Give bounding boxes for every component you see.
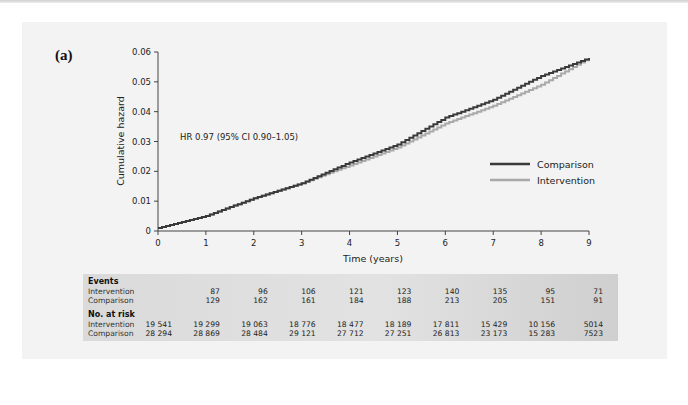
y-tick-label: 0.06 <box>132 47 151 57</box>
at-risk-intervention-cell: 18 776 <box>276 320 316 329</box>
events-intervention-cell: 95 <box>515 287 555 296</box>
legend-label-intervention: Intervention <box>537 175 595 186</box>
x-tick-label: 7 <box>491 238 496 248</box>
events-comparison-cell: 188 <box>371 296 411 305</box>
events-comparison-cell: 161 <box>276 296 316 305</box>
events-intervention-cell: 140 <box>419 287 459 296</box>
at-risk-comparison-cell: 28 294 <box>132 329 172 338</box>
y-tick-label: 0 <box>146 226 151 236</box>
events-comparison-cell: 129 <box>180 296 220 305</box>
at-risk-intervention-cell: 18 189 <box>371 320 411 329</box>
events-header: Events <box>88 277 118 286</box>
cumulative-hazard-chart: 00.010.020.030.040.050.060123456789 HR 0… <box>0 0 688 405</box>
events-intervention-cell: 121 <box>324 287 364 296</box>
legend: Comparison Intervention <box>490 159 595 186</box>
at-risk-intervention-cell: 17 811 <box>419 320 459 329</box>
at-risk-row-label-comparison: Comparison <box>88 329 133 338</box>
events-row-label-comparison: Comparison <box>88 296 133 305</box>
events-intervention-cell: 106 <box>276 287 316 296</box>
at-risk-comparison-cell: 27 712 <box>324 329 364 338</box>
risk-table: Events Intervention Comparison No. at ri… <box>83 274 618 341</box>
y-tick-label: 0.05 <box>132 77 151 87</box>
x-tick-label: 1 <box>203 238 208 248</box>
series-line-comparison <box>158 58 589 228</box>
events-row-label-intervention: Intervention <box>88 287 134 296</box>
y-axis-title: Cumulative hazard <box>115 96 126 186</box>
series-lines <box>158 58 589 228</box>
at-risk-comparison-cell: 26 813 <box>419 329 459 338</box>
at-risk-comparison-cell: 29 121 <box>276 329 316 338</box>
at-risk-intervention-cell: 19 541 <box>132 320 172 329</box>
events-comparison-cell: 162 <box>228 296 268 305</box>
x-tick-label: 6 <box>443 238 448 248</box>
x-tick-label: 9 <box>586 238 591 248</box>
x-tick-label: 2 <box>251 238 256 248</box>
x-tick-label: 4 <box>347 238 352 248</box>
events-intervention-cell: 135 <box>467 287 507 296</box>
legend-label-comparison: Comparison <box>537 159 594 170</box>
events-comparison-cell: 91 <box>563 296 603 305</box>
at-risk-intervention-cell: 5014 <box>563 320 603 329</box>
at-risk-intervention-cell: 18 477 <box>324 320 364 329</box>
x-tick-label: 0 <box>155 238 160 248</box>
at-risk-comparison-cell: 15 283 <box>515 329 555 338</box>
at-risk-comparison-cell: 23 173 <box>467 329 507 338</box>
at-risk-intervention-cell: 19 063 <box>228 320 268 329</box>
at-risk-intervention-cell: 15 429 <box>467 320 507 329</box>
y-tick-label: 0.01 <box>132 196 151 206</box>
y-tick-label: 0.02 <box>132 166 151 176</box>
at-risk-comparison-cell: 27 251 <box>371 329 411 338</box>
y-tick-label: 0.04 <box>132 107 151 117</box>
events-intervention-cell: 71 <box>563 287 603 296</box>
x-tick-label: 3 <box>299 238 304 248</box>
x-tick-label: 5 <box>395 238 400 248</box>
y-tick-label: 0.03 <box>132 137 151 147</box>
x-tick-label: 8 <box>538 238 543 248</box>
events-intervention-cell: 96 <box>228 287 268 296</box>
events-comparison-cell: 184 <box>324 296 364 305</box>
at-risk-comparison-cell: 7523 <box>563 329 603 338</box>
events-comparison-cell: 205 <box>467 296 507 305</box>
at-risk-intervention-cell: 19 299 <box>180 320 220 329</box>
events-comparison-cell: 151 <box>515 296 555 305</box>
at-risk-comparison-cell: 28 484 <box>228 329 268 338</box>
at-risk-intervention-cell: 10 156 <box>515 320 555 329</box>
events-intervention-cell: 87 <box>180 287 220 296</box>
x-axis-title: Time (years) <box>342 253 403 264</box>
events-comparison-cell: 213 <box>419 296 459 305</box>
events-intervention-cell: 123 <box>371 287 411 296</box>
at-risk-row-label-intervention: Intervention <box>88 320 134 329</box>
at-risk-comparison-cell: 28 869 <box>180 329 220 338</box>
hr-annotation: HR 0.97 (95% CI 0.90–1.05) <box>180 132 298 142</box>
at-risk-header: No. at risk <box>88 310 135 319</box>
